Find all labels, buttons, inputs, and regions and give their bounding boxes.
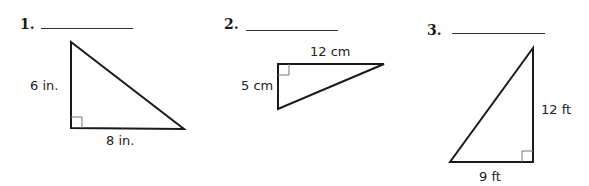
right-angle-mark-icon: [278, 64, 289, 75]
right-triangle-3: [450, 48, 533, 162]
triangle-figures: [0, 0, 589, 186]
right-triangle-2: [278, 64, 384, 109]
right-triangle-1: [71, 42, 184, 129]
right-angle-mark-icon: [522, 151, 533, 162]
right-angle-mark-icon: [71, 117, 82, 128]
